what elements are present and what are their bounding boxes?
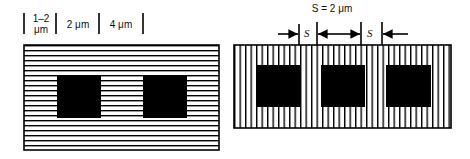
dimension-label-1-2um: 1–2 μm	[30, 13, 52, 35]
right-spacing-annotation	[278, 22, 408, 45]
right-grating-panel	[234, 45, 451, 128]
right-square-3	[386, 65, 431, 107]
spacing-symbol-s-1: S	[304, 28, 310, 39]
right-square-1	[256, 65, 300, 107]
spacing-symbol-s-2: S	[367, 28, 373, 39]
left-square-1	[57, 76, 101, 118]
spacing-title-label: S = 2 μm	[300, 3, 364, 14]
horizontal-line-grating	[24, 45, 219, 150]
left-grating-panel	[24, 45, 219, 150]
dimension-label-4um: 4 μm	[103, 19, 139, 30]
label-line-1: 1–2	[30, 13, 52, 24]
left-square-2	[143, 76, 187, 118]
dimension-label-2um: 2 μm	[60, 19, 96, 30]
label-line-2: μm	[30, 24, 52, 35]
right-square-2	[321, 65, 365, 107]
